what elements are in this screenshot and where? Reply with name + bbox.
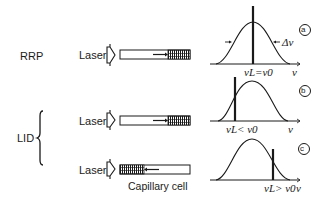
linewidth-label: Δν — [282, 36, 293, 48]
laser-frequency-label-b: νL< ν0 — [226, 123, 258, 135]
capillary-cell-c — [120, 165, 190, 174]
capillary-cell-caption: Capillary cell — [128, 180, 188, 192]
lid-label: LID — [17, 132, 34, 144]
capillary-cell-a — [120, 50, 190, 59]
spectrum-plot-b — [210, 77, 311, 123]
axis-label-a: ν — [292, 66, 297, 78]
laser-label: Laser — [79, 164, 107, 176]
laser-arrow-icon — [107, 110, 115, 130]
panel-badge-a: a — [301, 24, 305, 36]
axis-label-c: ν — [296, 182, 301, 194]
spectrum-plot-a — [210, 6, 311, 66]
rrp-label: RRP — [20, 50, 43, 62]
capillary-cell-b — [120, 116, 190, 125]
laser-label: Laser — [79, 115, 107, 127]
laser-arrow-icon — [107, 44, 115, 66]
axis-label-b: ν — [288, 123, 293, 135]
panel-badge-c: c — [300, 143, 304, 155]
spectrum-plot-c — [210, 139, 310, 182]
panel-badge-b: b — [301, 85, 305, 97]
laser-frequency-label-c: νL> ν0 — [264, 182, 296, 194]
brace-icon — [37, 111, 43, 165]
laser-frequency-label-a: νL=ν0 — [244, 66, 273, 78]
diagram-canvas — [0, 0, 328, 200]
laser-label: Laser — [79, 49, 107, 61]
laser-arrow-icon — [107, 159, 115, 179]
